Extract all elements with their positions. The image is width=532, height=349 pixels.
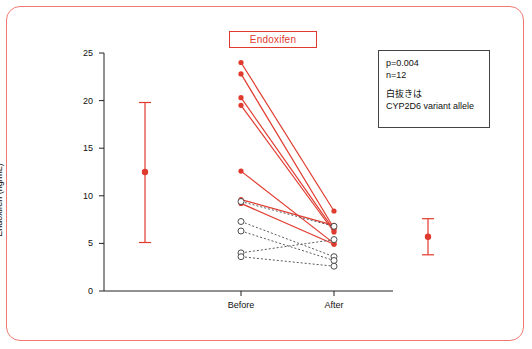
line-subject-9	[241, 222, 334, 257]
point-subject-12-before	[238, 254, 244, 260]
x-tick-label-before: Before	[211, 300, 271, 310]
y-tick-label-25: 25	[73, 48, 93, 58]
series-lines-filled	[241, 63, 334, 245]
line-subject-5	[241, 171, 334, 243]
summary-after-mean	[425, 234, 431, 240]
x-tick-label-after: After	[304, 300, 364, 310]
point-subject-11-after	[331, 237, 337, 243]
line-subject-2	[241, 74, 334, 228]
point-subject-2-before	[238, 71, 243, 76]
point-subject-12-after	[331, 263, 337, 269]
markers-filled	[238, 60, 336, 247]
point-subject-10-after	[331, 258, 337, 264]
point-subject-1-before	[238, 60, 243, 65]
y-tick-label-0: 0	[73, 286, 93, 296]
x-tick-marks	[241, 291, 334, 296]
slide-canvas: Endoxifen p=0.004 n=12 白抜きは CYP2D6 varia…	[0, 0, 532, 349]
point-subject-4-after	[331, 229, 336, 234]
point-subject-8-after	[331, 223, 337, 229]
y-tick-label-15: 15	[73, 143, 93, 153]
line-subject-3	[241, 98, 334, 230]
point-subject-3-before	[238, 95, 243, 100]
y-axis-label: Endoxifen (ng/mL)	[0, 140, 4, 260]
point-subject-5-before	[238, 169, 243, 174]
y-tick-label-10: 10	[73, 191, 93, 201]
y-tick-label-20: 20	[73, 96, 93, 106]
point-subject-9-before	[238, 219, 244, 225]
point-subject-10-before	[238, 228, 244, 234]
line-subject-1	[241, 63, 334, 212]
summary-before-mean	[142, 169, 148, 175]
y-tick-label-5: 5	[73, 238, 93, 248]
point-subject-1-after	[331, 208, 336, 213]
line-subject-10	[241, 231, 334, 261]
point-subject-8-before	[238, 199, 244, 205]
point-subject-4-before	[238, 103, 243, 108]
line-subject-12	[241, 257, 334, 267]
y-tick-marks	[99, 53, 104, 291]
